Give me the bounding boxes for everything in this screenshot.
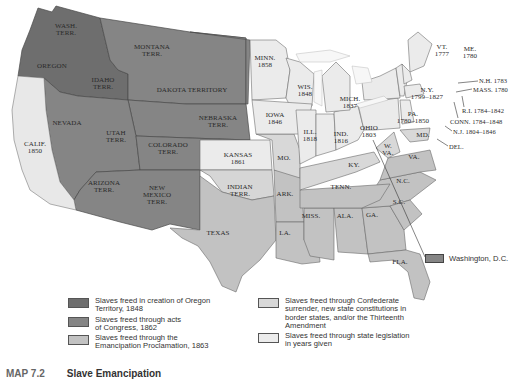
svg-text:WASH.TERR.: WASH.TERR.: [55, 22, 77, 37]
legend-item-confederate-surrender: Slaves freed through Confederatesurrende…: [258, 297, 448, 330]
svg-text:ILL.1818: ILL.1818: [303, 128, 318, 143]
legend-item-state-legislation: Slaves freed through state legislationin…: [258, 332, 448, 349]
map-caption: MAP 7.2Slave Emancipation: [6, 368, 161, 379]
svg-text:IOWA1846: IOWA1846: [266, 111, 285, 126]
svg-text:MO.: MO.: [277, 154, 290, 162]
svg-text:MD.: MD.: [416, 131, 429, 139]
svg-text:S.C.: S.C.: [393, 198, 406, 206]
legend-text: of Congress, 1862: [95, 323, 157, 332]
legend-swatch: [258, 333, 279, 343]
svg-text:UTAHTERR.: UTAHTERR.: [106, 129, 126, 144]
svg-text:DAKOTA TERRITORY: DAKOTA TERRITORY: [157, 86, 228, 94]
svg-text:INDIANTERR.: INDIANTERR.: [227, 183, 252, 198]
legend-text: Emancipation Proclamation, 1863: [95, 341, 209, 350]
legend-text: Territory, 1848: [95, 304, 143, 313]
map-number: MAP 7.2: [6, 368, 45, 379]
svg-text:CONN. 1784–1848: CONN. 1784–1848: [450, 118, 502, 125]
legend-swatch: [258, 298, 279, 308]
dc-swatch: [425, 254, 444, 263]
svg-text:R.I. 1784–1842: R.I. 1784–1842: [462, 107, 504, 114]
svg-text:WIS.1848: WIS.1848: [298, 83, 313, 98]
svg-text:VA.: VA.: [408, 153, 419, 161]
svg-text:FLA.: FLA.: [392, 258, 408, 266]
northeast-callouts: N.H. 1783 MASS. 1780 R.I. 1784–1842 CONN…: [437, 77, 508, 150]
svg-text:N.H. 1783: N.H. 1783: [479, 77, 507, 84]
legend-item-emancipation-1863: Slaves freed through theEmancipation Pro…: [68, 334, 248, 351]
dc-legend: Washington, D.C.: [425, 254, 508, 263]
emancipation-map: WASH.TERR. OREGON IDAHOTERR. MONTANATERR…: [0, 0, 517, 330]
svg-text:MASS. 1780: MASS. 1780: [473, 86, 508, 93]
legend-left: Slaves freed in creation of OregonTerrit…: [68, 297, 248, 353]
legend-right: Slaves freed through Confederatesurrende…: [258, 297, 448, 351]
svg-text:ARK.: ARK.: [277, 190, 294, 198]
svg-text:KY.: KY.: [348, 161, 359, 169]
map-title: Slave Emancipation: [67, 368, 161, 379]
svg-text:VT.1777: VT.1777: [435, 43, 450, 58]
svg-text:MISS.: MISS.: [302, 212, 321, 220]
legend-text: Amendment: [285, 321, 326, 330]
svg-text:OREGON: OREGON: [37, 62, 67, 70]
svg-text:ALA.: ALA.: [337, 212, 354, 220]
legend-item-congress-1862: Slaves freed through actsof Congress, 18…: [68, 316, 248, 333]
svg-text:IND.1816: IND.1816: [334, 130, 349, 145]
svg-text:IDAHOTERR.: IDAHOTERR.: [91, 76, 114, 91]
svg-text:DEL.: DEL.: [449, 143, 464, 150]
svg-text:TEXAS: TEXAS: [206, 229, 229, 237]
legend-swatch: [68, 335, 89, 345]
svg-text:ME.1780: ME.1780: [463, 45, 478, 60]
svg-text:LA.: LA.: [279, 229, 291, 237]
svg-text:N.J. 1804–1846: N.J. 1804–1846: [453, 128, 496, 135]
svg-text:NEVADA: NEVADA: [52, 119, 81, 127]
legend-swatch: [68, 317, 89, 327]
legend-item-oregon-1848: Slaves freed in creation of OregonTerrit…: [68, 297, 248, 314]
legend-text: in years given: [285, 339, 332, 348]
legend-swatch: [68, 298, 89, 308]
dc-legend-label: Washington, D.C.: [449, 254, 508, 263]
svg-text:GA.: GA.: [366, 211, 378, 219]
svg-text:TENN.: TENN.: [331, 183, 352, 191]
svg-text:N.C.: N.C.: [396, 177, 410, 185]
svg-text:OHIO1803: OHIO1803: [360, 124, 378, 139]
